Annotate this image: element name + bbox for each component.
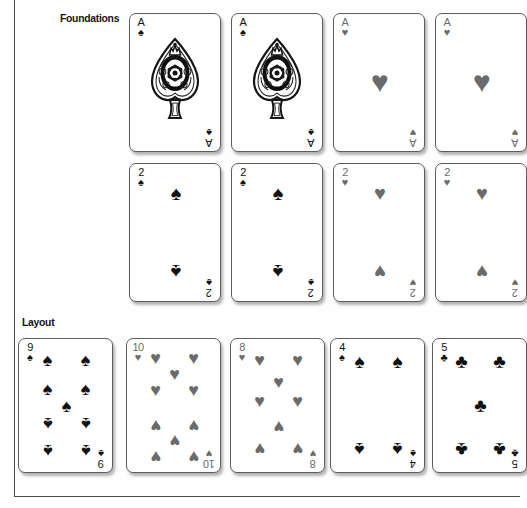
spade-pip: ♠	[36, 380, 60, 398]
card-corner-index-bottom-right: 2♥	[405, 278, 421, 298]
spade-icon: ♠	[201, 278, 217, 288]
heart-pip: ♥	[182, 448, 206, 466]
heart-pip: ♥	[469, 262, 495, 282]
ornate-spade-artwork	[248, 33, 306, 125]
club-pip: ♣	[487, 440, 512, 459]
club-pip: ♣	[449, 440, 474, 459]
spade-pip: ♠	[265, 262, 291, 282]
spade-pip: ♠	[74, 415, 98, 433]
card-10-of-hearts[interactable]: 10♥10♥♥♥♥♥♥♥♥♥♥♥	[126, 338, 221, 473]
spade-pip: ♠	[385, 352, 410, 371]
heart-pip: ♥	[367, 183, 393, 203]
spade-pip: ♠	[55, 397, 79, 415]
heart-pip: ♥	[286, 351, 310, 369]
club-pip: ♣	[449, 352, 474, 371]
club-pip: ♣	[487, 352, 512, 371]
spade-icon: ♠	[303, 128, 319, 138]
spade-pip: ♠	[265, 183, 291, 203]
card-9-of-spades[interactable]: 9♠9♠♠♠♠♠♠♠♠♠♠	[18, 338, 113, 473]
heart-pip: ♥	[362, 67, 398, 97]
ornate-spade-artwork	[146, 33, 204, 125]
heart-icon: ♥	[405, 278, 421, 288]
spade-pip: ♠	[163, 262, 189, 282]
spade-icon: ♠	[133, 177, 149, 187]
heart-pip: ♥	[144, 381, 168, 399]
card-2-of-hearts[interactable]: 2♥2♥♥♥	[435, 163, 527, 302]
card-corner-index-bottom-right: A♥	[507, 128, 523, 148]
heart-pip: ♥	[248, 351, 272, 369]
heart-icon: ♥	[439, 27, 455, 37]
card-a-of-hearts[interactable]: A♥A♥♥	[435, 13, 527, 152]
page-border-bottom	[14, 496, 520, 497]
heart-pip: ♥	[248, 440, 272, 458]
card-a-of-spades[interactable]: A♠A♠	[129, 13, 221, 152]
heart-pip: ♥	[469, 183, 495, 203]
spade-pip: ♠	[36, 442, 60, 460]
card-5-of-clubs[interactable]: 5♣5♣♣♣♣♣♣	[432, 338, 527, 473]
card-corner-index-top-left: 2♠	[133, 167, 149, 187]
card-corner-index-top-left: 2♥	[337, 167, 353, 187]
heart-pip: ♥	[367, 262, 393, 282]
heart-pip: ♥	[267, 418, 291, 436]
heart-pip: ♥	[248, 392, 272, 410]
card-corner-index-bottom-right: 2♥	[507, 278, 523, 298]
club-pip: ♣	[468, 396, 493, 415]
card-2-of-spades[interactable]: 2♠2♠♠♠	[231, 163, 323, 302]
heart-icon: ♥	[337, 27, 353, 37]
card-corner-index-top-left: 2♥	[439, 167, 455, 187]
spade-pip: ♠	[74, 442, 98, 460]
spade-pip: ♠	[347, 352, 372, 371]
heart-pip: ♥	[182, 381, 206, 399]
heart-icon: ♥	[439, 177, 455, 187]
heart-pip: ♥	[286, 392, 310, 410]
layout-label: Layout	[22, 316, 54, 328]
card-4-of-spades[interactable]: 4♠4♠♠♠♠♠	[330, 338, 425, 473]
heart-icon: ♥	[507, 128, 523, 138]
card-corner-index-bottom-right: 2♠	[201, 278, 217, 298]
card-2-of-spades[interactable]: 2♠2♠♠♠	[129, 163, 221, 302]
spade-pip: ♠	[36, 415, 60, 433]
page-border-left	[14, 0, 15, 497]
spade-pip: ♠	[347, 440, 372, 459]
card-corner-index-top-left: A♥	[337, 17, 353, 37]
card-corner-index-bottom-right: A♠	[201, 128, 217, 148]
spade-pip: ♠	[163, 183, 189, 203]
spade-pip: ♠	[385, 440, 410, 459]
heart-icon: ♥	[405, 128, 421, 138]
heart-icon: ♥	[337, 177, 353, 187]
foundations-label: Foundations	[60, 12, 119, 24]
spade-pip: ♠	[74, 351, 98, 369]
card-2-of-hearts[interactable]: 2♥2♥♥♥	[333, 163, 425, 302]
spade-pip: ♠	[74, 380, 98, 398]
spade-icon: ♠	[201, 128, 217, 138]
heart-pip: ♥	[464, 67, 500, 97]
card-corner-index-bottom-right: A♥	[405, 128, 421, 148]
ornate-ace-pip	[248, 33, 306, 129]
spade-icon: ♠	[303, 278, 319, 288]
heart-pip: ♥	[286, 440, 310, 458]
heart-pip: ♥	[267, 373, 291, 391]
card-corner-index-top-left: A♥	[439, 17, 455, 37]
card-corner-index-top-left: 2♠	[235, 167, 251, 187]
spade-icon: ♠	[235, 177, 251, 187]
heart-icon: ♥	[507, 278, 523, 288]
heart-pip: ♥	[144, 448, 168, 466]
spade-pip: ♠	[36, 351, 60, 369]
ornate-ace-pip	[146, 33, 204, 129]
card-corner-index-bottom-right: 2♠	[303, 278, 319, 298]
card-corner-index-bottom-right: A♠	[303, 128, 319, 148]
heart-pip: ♥	[163, 432, 187, 450]
card-a-of-spades[interactable]: A♠A♠	[231, 13, 323, 152]
card-8-of-hearts[interactable]: 8♥8♥♥♥♥♥♥♥♥♥	[230, 338, 325, 473]
card-a-of-hearts[interactable]: A♥A♥♥	[333, 13, 425, 152]
